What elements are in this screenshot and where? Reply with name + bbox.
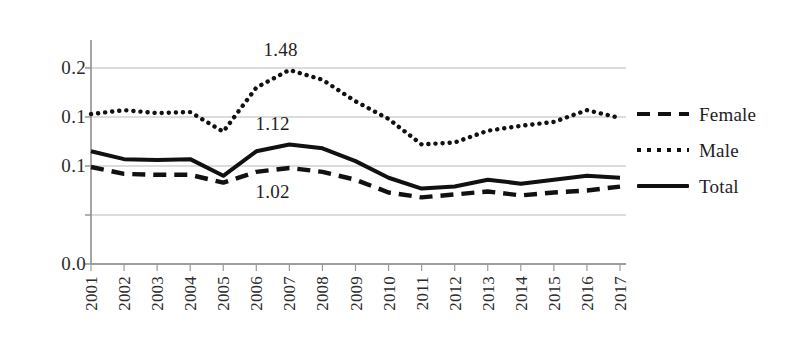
legend-item-label: Male [699,141,739,160]
x-axis-tick-label: 2014 [513,276,529,338]
x-axis-tick-label: 2003 [149,276,165,338]
x-axis-tick-label-text: 2011 [413,276,430,310]
chart-legend: FemaleMaleTotal [636,96,790,204]
legend-item-total[interactable]: Total [636,168,790,204]
data-label-1-12: 1.12 [255,114,289,133]
x-axis-tick-label-text: 2017 [612,276,629,311]
x-axis-tick-label: 2013 [480,276,496,338]
x-axis-tick-label-text: 2008 [314,276,331,311]
dashed-line-key-glyph [637,112,689,116]
y-axis-tick-label: 0.1 [24,156,86,175]
x-axis-tick-label-text: 2003 [149,276,166,311]
x-axis-tick-label: 2009 [348,276,364,338]
x-axis-tick-label-text: 2007 [281,276,298,311]
y-axis-tick-label: 0.1 [24,107,86,126]
solid-line-key [636,179,690,193]
x-axis-tick-label: 2010 [381,276,397,338]
x-axis-tick-label-text: 2009 [347,276,364,311]
x-axis-tick-label-text: 2014 [512,276,529,311]
x-axis-tick-label: 2011 [414,276,430,338]
x-axis-tick-label-text: 2005 [215,276,232,311]
x-axis-tick-label: 2006 [248,276,264,338]
y-axis-tick-label: 0.2 [24,58,86,77]
data-label-1-48: 1.48 [263,40,297,59]
line-chart: 0.20.10.10.0 200120022003200420052006200… [0,0,790,346]
x-axis-tick-label: 2012 [447,276,463,338]
x-axis-tick-label: 2004 [182,276,198,338]
x-axis-tick-label: 2005 [215,276,231,338]
x-axis-tick-label: 2002 [116,276,132,338]
legend-item-female[interactable]: Female [636,96,790,132]
legend-item-male[interactable]: Male [636,132,790,168]
gridlines [91,68,626,264]
x-axis-tick-label: 2016 [579,276,595,338]
x-axis-tick-label: 2001 [83,276,99,338]
x-axis-tick-label: 2007 [281,276,297,338]
data-series-group [91,70,620,197]
dashed-line-key [636,107,690,121]
x-axis-tick-label-text: 2012 [446,276,463,311]
solid-line-key-glyph [637,184,689,188]
dotted-line-key-glyph [637,148,689,152]
x-axis-tick-label-text: 2002 [116,276,133,311]
x-axis-tick-label-text: 2016 [578,276,595,311]
x-axis-tick-label-text: 2006 [248,276,265,311]
x-axis-tick-label: 2015 [546,276,562,338]
dotted-line-key [636,143,690,157]
x-axis-tick-label-text: 2015 [545,276,562,311]
x-axis-tick-label-text: 2001 [83,276,100,311]
series-line-male [91,70,620,144]
x-axis-tick-label: 2017 [612,276,628,338]
x-axis-tick-label-text: 2004 [182,276,199,311]
axis-lines [91,40,626,264]
x-axis-tick-label: 2008 [314,276,330,338]
x-axis-tick-label-text: 2010 [380,276,397,311]
legend-item-label: Female [699,105,756,124]
data-label-1-02: 1.02 [255,182,289,201]
x-axis-labels: 2001200220032004200520062007200820092010… [0,270,790,346]
x-axis-tick-label-text: 2013 [479,276,496,311]
legend-item-label: Total [699,177,739,196]
